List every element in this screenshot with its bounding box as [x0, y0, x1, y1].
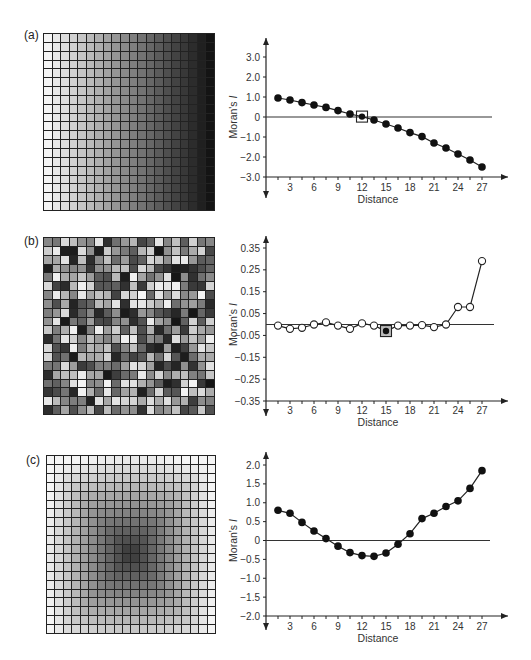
x-tick-label: 27 — [476, 621, 488, 632]
data-point — [394, 540, 402, 548]
y-tick-label: −1.0 — [240, 573, 260, 584]
series-line — [278, 471, 482, 557]
data-point — [346, 549, 354, 557]
y-tick-label: −0.5 — [240, 554, 260, 565]
y-axis-up-arrow-icon — [263, 452, 269, 459]
x-axis-title: Distance — [358, 632, 399, 644]
x-tick-label: 12 — [356, 621, 368, 632]
data-point — [466, 485, 474, 493]
data-point — [274, 507, 282, 515]
data-point — [358, 552, 366, 560]
data-point — [442, 503, 450, 511]
y-tick-label: 0.5 — [246, 516, 260, 527]
x-tick-label: 18 — [404, 621, 416, 632]
panel-c-chart: 369121518212427Distance2.01.51.00.50−0.5… — [0, 0, 531, 660]
data-point — [298, 519, 306, 527]
data-point — [334, 542, 342, 550]
x-axis-right-arrow-icon — [501, 613, 508, 619]
data-point — [406, 530, 414, 538]
y-tick-label: 0 — [254, 535, 260, 546]
y-tick-label: 1.5 — [246, 478, 260, 489]
x-tick-label: 21 — [428, 621, 440, 632]
data-point — [478, 467, 486, 475]
data-point — [286, 510, 294, 518]
x-tick-label: 15 — [380, 621, 392, 632]
data-point — [370, 553, 378, 561]
data-point — [418, 515, 426, 523]
data-point — [382, 549, 390, 557]
y-axis-down-arrow-icon — [263, 623, 269, 630]
data-point — [310, 527, 318, 535]
x-tick-label: 3 — [287, 621, 293, 632]
y-tick-label: 1.0 — [246, 497, 260, 508]
x-tick-label: 6 — [311, 621, 317, 632]
data-point — [430, 510, 438, 518]
x-tick-label: 9 — [335, 621, 341, 632]
data-point — [454, 497, 462, 505]
data-point — [322, 535, 330, 543]
y-tick-label: −2.0 — [240, 611, 260, 622]
y-axis-title: Moran's I — [227, 519, 239, 562]
x-tick-label: 24 — [452, 621, 464, 632]
y-tick-label: −1.5 — [240, 592, 260, 603]
y-tick-label: 2.0 — [246, 460, 260, 471]
